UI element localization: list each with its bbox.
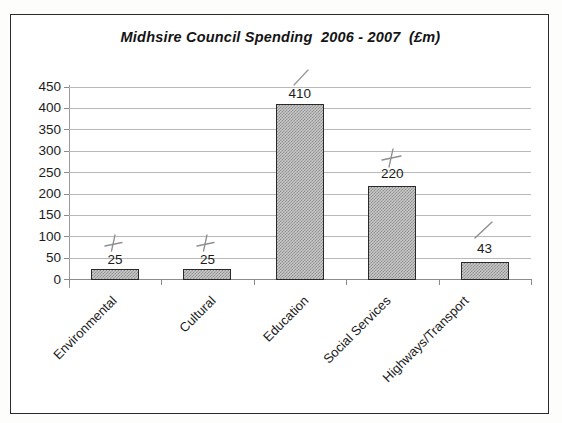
bar-social-services[interactable] — [368, 186, 416, 280]
y-axis-tick-label: 150 — [17, 208, 61, 222]
plot-area: 25 25 410 220 43 — [69, 87, 531, 280]
value-label-cultural: 25 — [183, 253, 231, 267]
bar-highways-transport[interactable] — [461, 262, 509, 280]
bar-education[interactable] — [276, 104, 324, 280]
value-label-social-services: 220 — [368, 167, 416, 181]
x-axis-tick — [69, 279, 70, 285]
x-axis-tick — [439, 279, 440, 285]
pencil-slash-over-education-icon — [291, 68, 313, 88]
y-axis-tick-label: 200 — [17, 187, 61, 201]
y-axis-tick-label: 350 — [17, 123, 61, 137]
x-axis-label-cultural: Cultural — [123, 293, 218, 388]
x-axis-tick — [161, 279, 162, 285]
y-axis-tick-label: 400 — [17, 101, 61, 115]
pencil-slash-over-highways-icon — [472, 219, 496, 241]
value-label-environmental: 25 — [91, 253, 139, 267]
x-axis-tick — [346, 279, 347, 285]
x-axis-label-highways-transport: Highways/Transport — [376, 293, 471, 388]
chart-title: Midhsire Council Spending 2006 - 2007 (£… — [11, 29, 550, 45]
x-axis-tick — [254, 279, 255, 285]
y-axis-tick-label: 0 — [17, 273, 61, 287]
y-axis-tick-label: 450 — [17, 80, 61, 94]
chart-frame: Midhsire Council Spending 2006 - 2007 (£… — [10, 14, 549, 414]
y-axis-tick-label: 300 — [17, 144, 61, 158]
value-label-highways-transport: 43 — [461, 242, 509, 256]
y-axis-tick-label: 50 — [17, 251, 61, 265]
x-axis-label-education: Education — [216, 293, 311, 388]
bar-environmental[interactable] — [91, 269, 139, 280]
y-axis-tick-label: 100 — [17, 230, 61, 244]
value-label-education: 410 — [276, 87, 324, 101]
x-axis-tick — [531, 279, 532, 285]
y-axis-tick-label: 250 — [17, 166, 61, 180]
bar-cultural[interactable] — [183, 269, 231, 280]
